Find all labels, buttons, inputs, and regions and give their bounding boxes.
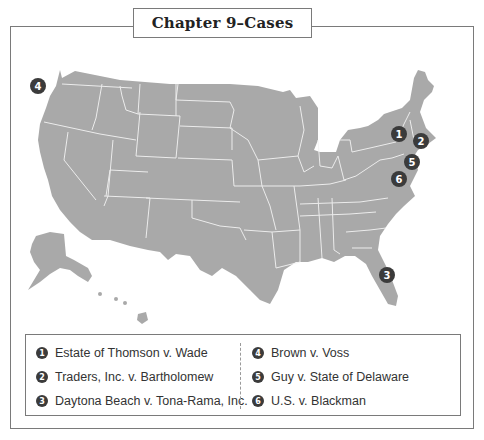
- legend-item: 5 Guy v. State of Delaware: [252, 365, 409, 389]
- legend-label: Daytona Beach v. Tona-Rama, Inc.: [55, 394, 248, 408]
- case-marker-2[interactable]: 2: [413, 133, 429, 149]
- legend-label: U.S. v. Blackman: [271, 394, 366, 408]
- legend-number-badge: 6: [252, 395, 264, 407]
- marker-number: 4: [35, 81, 42, 92]
- case-marker-6[interactable]: 6: [391, 171, 407, 187]
- case-marker-3[interactable]: 3: [379, 267, 395, 283]
- page-title: Chapter 9–Cases: [152, 14, 294, 32]
- legend-number-badge: 4: [252, 347, 264, 359]
- title-box: Chapter 9–Cases: [133, 8, 312, 38]
- legend-divider: [240, 343, 241, 409]
- legend-item: 4 Brown v. Voss: [252, 341, 409, 365]
- hawaii-shape: [137, 312, 148, 324]
- legend-label: Traders, Inc. v. Bartholomew: [55, 370, 213, 384]
- marker-number: 5: [409, 157, 416, 168]
- legend-number-badge: 1: [36, 347, 48, 359]
- legend-number-badge: 5: [252, 371, 264, 383]
- legend-label: Guy v. State of Delaware: [271, 370, 409, 384]
- legend-item: 1 Estate of Thomson v. Wade: [36, 341, 248, 365]
- legend-column-right: 4 Brown v. Voss 5 Guy v. State of Delawa…: [252, 341, 409, 413]
- case-marker-5[interactable]: 5: [404, 154, 420, 170]
- legend-number-badge: 3: [36, 395, 48, 407]
- legend-column-left: 1 Estate of Thomson v. Wade 2 Traders, I…: [36, 341, 248, 413]
- legend-item: 3 Daytona Beach v. Tona-Rama, Inc.: [36, 389, 248, 413]
- legend-item: 6 U.S. v. Blackman: [252, 389, 409, 413]
- alaska-shape: [28, 232, 92, 290]
- case-marker-1[interactable]: 1: [391, 126, 407, 142]
- legend: 1 Estate of Thomson v. Wade 2 Traders, I…: [25, 334, 461, 416]
- marker-number: 3: [384, 270, 391, 281]
- marker-number: 2: [418, 136, 425, 147]
- legend-item: 2 Traders, Inc. v. Bartholomew: [36, 365, 248, 389]
- contiguous-us-shape: [38, 70, 436, 306]
- legend-label: Brown v. Voss: [271, 346, 349, 360]
- marker-number: 1: [396, 129, 403, 140]
- case-marker-4[interactable]: 4: [30, 78, 46, 94]
- legend-label: Estate of Thomson v. Wade: [55, 346, 208, 360]
- legend-number-badge: 2: [36, 371, 48, 383]
- marker-number: 6: [396, 174, 403, 185]
